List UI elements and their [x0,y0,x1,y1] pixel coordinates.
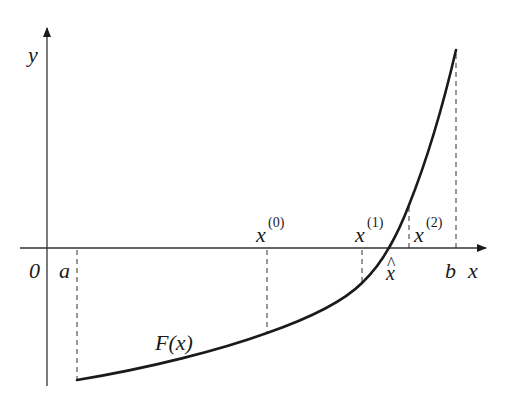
iterate-x2: x (2) [413,215,443,247]
b-label: b [445,258,456,283]
curve-label: F(x) [154,330,193,355]
iterate-x1: x (1) [354,215,384,247]
svg-text:x: x [354,222,365,247]
svg-text:(1): (1) [367,215,384,231]
x-axis-label: x [467,258,478,283]
svg-text:x: x [413,222,424,247]
svg-text:x: x [255,222,266,247]
origin-label: 0 [29,258,40,283]
diagram-canvas: y 0 a b x x ^ x (0) x (1) x (2) F(x) [0,0,511,403]
svg-text:(2): (2) [426,215,443,231]
svg-text:(0): (0) [268,215,285,231]
y-axis-label: y [26,42,38,67]
a-label: a [59,258,70,283]
curve-f [77,50,456,380]
iterate-x0: x (0) [255,215,285,247]
root-hat: ^ [387,254,396,274]
